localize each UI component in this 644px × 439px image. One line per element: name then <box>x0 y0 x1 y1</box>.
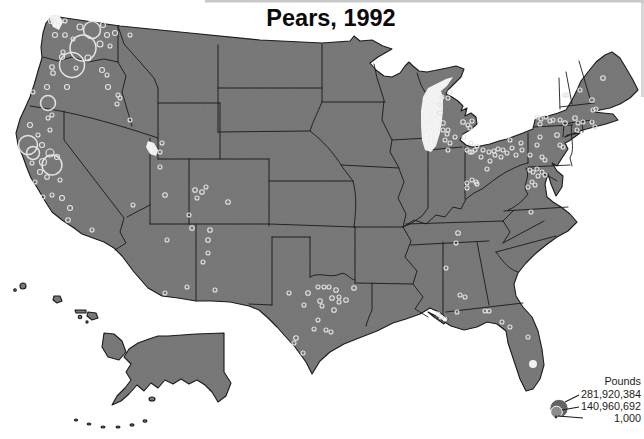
legend-value-max: 281,920,384 <box>581 388 641 400</box>
map-title: Pears, 1992 <box>266 5 395 31</box>
production-bubble <box>448 90 452 94</box>
legend-leader-line-1 <box>565 395 579 402</box>
legend-unit-label: Pounds <box>604 375 641 387</box>
legend-circle-min <box>555 416 558 419</box>
legend: Pounds 281,920,384 140,960,692 1,000 <box>550 375 642 424</box>
lake-okeechobee <box>529 360 537 368</box>
hawaii-islands <box>14 283 126 360</box>
alaska-silhouette <box>112 333 231 405</box>
map-screenshot: Pears, 1992 Pounds 281,920,384 140,960,6… <box>0 0 644 439</box>
legend-value-min: 1,000 <box>614 412 641 424</box>
us-bubble-map: Pears, 1992 Pounds 281,920,384 140,960,6… <box>0 0 644 439</box>
production-bubble <box>443 317 447 321</box>
scan-artifact-top <box>205 0 644 3</box>
production-bubble <box>439 315 443 319</box>
production-bubble <box>469 141 473 145</box>
legend-value-mid: 140,960,692 <box>581 400 641 412</box>
production-bubble <box>462 135 466 139</box>
